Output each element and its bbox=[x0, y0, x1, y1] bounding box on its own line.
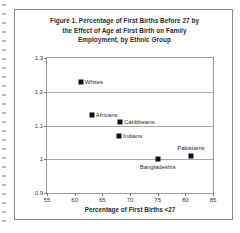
y-tick-label: 1.1 bbox=[35, 123, 43, 129]
chart-title: Figure 1. Percentage of First Births Bef… bbox=[23, 16, 226, 45]
x-tick-mark bbox=[213, 193, 214, 196]
y-tick-mark bbox=[44, 92, 47, 93]
data-point-marker bbox=[116, 133, 121, 138]
y-tick-label: 1.3 bbox=[35, 55, 43, 61]
x-tick-label: 65 bbox=[99, 197, 106, 203]
x-tick-mark bbox=[158, 193, 159, 196]
scan-edge-artifact bbox=[2, 4, 6, 228]
gridline bbox=[47, 126, 213, 127]
x-tick-label: 60 bbox=[71, 197, 78, 203]
data-point-marker bbox=[188, 153, 193, 158]
x-tick-label: 55 bbox=[44, 197, 51, 203]
gridline bbox=[47, 159, 213, 160]
y-tick-label: 1 bbox=[40, 156, 43, 162]
chart-title-line-0: Figure 1. Percentage of First Births Bef… bbox=[23, 16, 226, 26]
x-tick-mark bbox=[130, 193, 131, 196]
figure-frame: Figure 1. Percentage of First Births Bef… bbox=[14, 9, 233, 220]
x-tick-label: 70 bbox=[127, 197, 134, 203]
data-point-label: Caribbeans bbox=[124, 119, 155, 125]
y-tick-mark bbox=[44, 58, 47, 59]
x-tick-mark bbox=[47, 193, 48, 196]
x-tick-label: 80 bbox=[182, 197, 189, 203]
x-tick-mark bbox=[102, 193, 103, 196]
y-tick-label: 0.9 bbox=[35, 190, 43, 196]
y-tick-mark bbox=[44, 126, 47, 127]
data-point-label: Bangladeshis bbox=[140, 164, 176, 170]
y-tick-label: 1.2 bbox=[35, 89, 43, 95]
x-tick-label: 85 bbox=[210, 197, 217, 203]
data-point-marker bbox=[118, 120, 123, 125]
data-point-label: Pakistanis bbox=[177, 145, 204, 151]
y-tick-mark bbox=[44, 159, 47, 160]
plot-area: 0.911.11.21.3 55606570758085 WhitesAfric… bbox=[46, 57, 214, 194]
x-tick-mark bbox=[185, 193, 186, 196]
gridline bbox=[47, 92, 213, 93]
data-point-marker bbox=[155, 157, 160, 162]
data-point-label: Africans bbox=[96, 112, 118, 118]
chart-title-line-1: the Effect of Age at First Birth on Fami… bbox=[23, 26, 226, 36]
x-tick-mark bbox=[75, 193, 76, 196]
chart-title-line-2: Employment, by Ethnic Group bbox=[23, 35, 226, 45]
data-point-label: Whites bbox=[85, 79, 103, 85]
data-point-marker bbox=[89, 113, 94, 118]
data-point-marker bbox=[78, 79, 83, 84]
x-axis-title: Percentage of First Births <27 bbox=[47, 206, 213, 213]
data-point-label: Indians bbox=[123, 133, 142, 139]
x-tick-label: 75 bbox=[154, 197, 161, 203]
